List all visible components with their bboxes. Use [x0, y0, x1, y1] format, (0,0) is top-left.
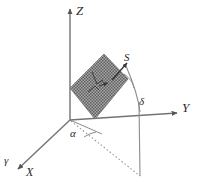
axis-label-z: Z [76, 4, 83, 17]
axis-label-x: X [26, 166, 33, 178]
diagram-svg [0, 0, 197, 187]
gamma-label: γ [4, 155, 8, 166]
y-axis [70, 113, 177, 120]
axis-label-y: Y [182, 101, 189, 114]
s-vector-label: S [124, 52, 130, 63]
tilted-plane [70, 54, 128, 119]
delta-angle-label: δ [139, 96, 144, 107]
alpha-angle-label: α [70, 128, 76, 139]
meridian-curve [126, 66, 140, 112]
azimuth-projection-line [71, 121, 140, 176]
diagram-canvas: Z Y X γ S δ α [0, 0, 197, 187]
x-axis [18, 120, 70, 169]
